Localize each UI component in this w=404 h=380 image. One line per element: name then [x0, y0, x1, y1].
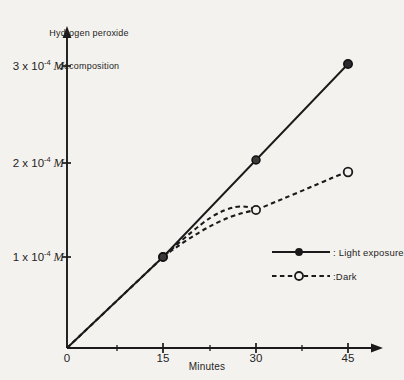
series-light-exposure	[67, 60, 352, 348]
y-tick-label-3: 3 x 10-4 M	[0, 58, 64, 74]
y-axis-title: Hydrogen peroxide decomposition	[26, 6, 152, 94]
y-tick-label-1: 1 x 10-4 M	[0, 249, 64, 265]
y-tick-symbol-2: M	[54, 156, 64, 170]
y-tick-symbol-3: M	[54, 59, 64, 73]
y-tick-exponent-2: -4	[44, 155, 50, 164]
y-tick-mantissa-3: x 10	[22, 60, 44, 72]
x-tick-label-0: 0	[52, 352, 82, 364]
data-point-light-45	[344, 60, 352, 68]
data-point-light-15	[159, 253, 167, 261]
data-point-light-30	[252, 156, 260, 164]
data-point-dark-30	[252, 206, 260, 214]
y-tick-value-1: 1	[13, 251, 19, 263]
y-tick-value-3: 3	[13, 60, 19, 72]
y-tick-exponent-3: -4	[44, 58, 50, 67]
legend-label-light-exposure: : Light exposure	[333, 247, 404, 258]
y-axis-title-line1: Hydrogen peroxide	[26, 28, 152, 39]
y-tick-mantissa-2: x 10	[22, 157, 44, 169]
y-tick-exponent-1: -4	[44, 249, 50, 258]
x-axis-title: Minutes	[170, 361, 244, 372]
x-tick-label-30: 30	[241, 352, 271, 364]
x-tick-label-45: 45	[333, 352, 363, 364]
series-dark	[67, 168, 352, 348]
y-tick-value-2: 2	[13, 157, 19, 169]
x-tick-label-15: 15	[148, 352, 178, 364]
y-tick-mantissa-1: x 10	[22, 251, 44, 263]
legend-light-swatch	[272, 248, 330, 256]
legend-dark-swatch	[272, 272, 330, 280]
y-tick-label-2: 2 x 10-4 M	[0, 155, 64, 171]
legend-label-dark: :Dark	[333, 271, 357, 282]
data-point-dark-45	[344, 168, 353, 177]
y-tick-symbol-1: M	[54, 250, 64, 264]
